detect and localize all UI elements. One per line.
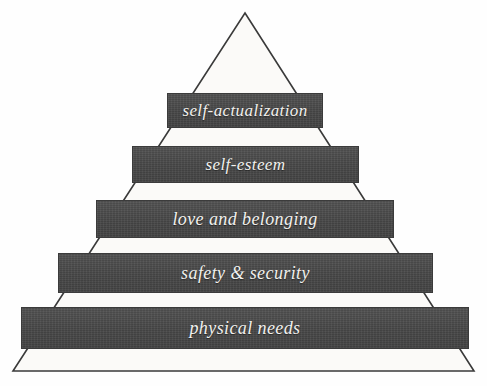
pyramid-tier-self-actualization[interactable]: self-actualization (167, 93, 323, 128)
pyramid-diagram-canvas: self-actualization self-esteem love and … (0, 0, 487, 386)
pyramid-tier-safety-and-security[interactable]: safety & security (58, 253, 433, 293)
pyramid-tier-physical-needs[interactable]: physical needs (21, 307, 469, 349)
tier-label-physical-needs: physical needs (189, 318, 300, 339)
tier-label-love-and-belonging: love and belonging (172, 209, 317, 230)
pyramid-tier-love-and-belonging[interactable]: love and belonging (96, 200, 394, 238)
pyramid-tier-self-esteem[interactable]: self-esteem (132, 146, 359, 183)
tier-label-safety-and-security: safety & security (181, 263, 310, 284)
tier-label-self-esteem: self-esteem (206, 155, 286, 175)
tier-label-self-actualization: self-actualization (182, 101, 307, 121)
